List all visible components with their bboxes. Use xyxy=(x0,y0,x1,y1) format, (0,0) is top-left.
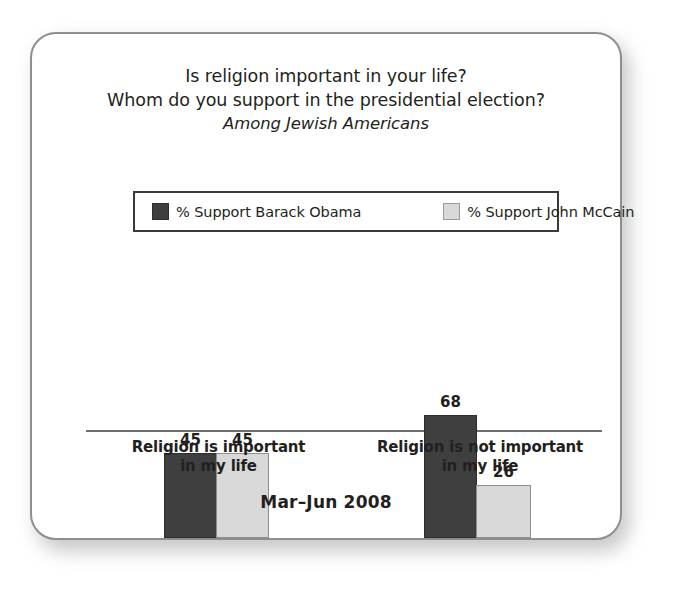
bar-obama-religion-not-important[interactable]: 68 xyxy=(424,415,477,538)
bar-group-religion-not-important: 68 26 xyxy=(424,142,531,538)
plot-area: 45 45 68 26 Religion is important in my … xyxy=(32,34,620,538)
chart-period-label: Mar–Jun 2008 xyxy=(32,492,620,512)
chart-card: Is religion important in your life? Whom… xyxy=(30,32,622,540)
category-label-religion-not-important: Religion is not important in my life xyxy=(362,438,598,476)
category-label-line-1: Religion is not important xyxy=(362,438,598,457)
bar-value-label: 68 xyxy=(440,393,461,411)
category-label-line-1: Religion is important xyxy=(106,438,331,457)
bar-group-religion-important: 45 45 xyxy=(164,142,269,538)
category-label-line-2: in my life xyxy=(106,457,331,476)
category-label-religion-important: Religion is important in my life xyxy=(106,438,331,476)
category-label-line-2: in my life xyxy=(362,457,598,476)
